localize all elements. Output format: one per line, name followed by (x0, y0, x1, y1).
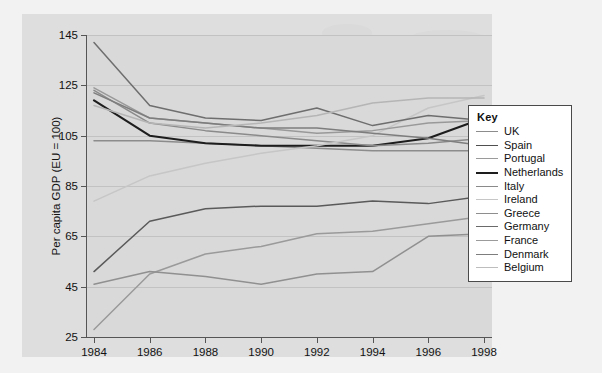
legend-item-portugal[interactable]: Portugal (476, 152, 565, 166)
legend-item-ireland[interactable]: Ireland (476, 193, 565, 207)
legend-swatch-icon (476, 254, 498, 255)
legend-swatch-icon (476, 199, 498, 200)
x-tick-label: 1984 (71, 346, 117, 358)
y-tick-label: 25 (32, 331, 78, 343)
legend-swatch-icon (476, 213, 498, 214)
legend-item-label: Denmark (504, 248, 549, 261)
legend-item-label: France (504, 234, 538, 247)
x-tick-label: 1986 (127, 346, 173, 358)
legend-item-greece[interactable]: Greece (476, 207, 565, 221)
legend-item-label: Belgium (504, 261, 544, 274)
y-axis-title-holder: Per capita GDP (EU = 100) (30, 10, 31, 11)
legend: Key UKSpainPortugalNetherlandsItalyIrela… (468, 105, 572, 282)
legend-item-label: Spain (504, 139, 532, 152)
legend-item-uk[interactable]: UK (476, 125, 565, 139)
legend-item-italy[interactable]: Italy (476, 179, 565, 193)
y-tick-label: 145 (32, 29, 78, 41)
legend-item-label: Italy (504, 180, 524, 193)
legend-item-label: Germany (504, 220, 549, 233)
legend-item-spain[interactable]: Spain (476, 139, 565, 153)
legend-item-france[interactable]: France (476, 234, 565, 248)
legend-swatch-icon (476, 267, 498, 268)
legend-item-denmark[interactable]: Denmark (476, 247, 565, 261)
legend-item-label: UK (504, 125, 519, 138)
series-line-greece (94, 234, 484, 284)
series-line-portugal (94, 216, 484, 329)
series-line-france (94, 88, 484, 133)
x-tick-label: 1996 (405, 346, 451, 358)
legend-item-netherlands[interactable]: Netherlands (476, 166, 565, 180)
x-tick-label: 1998 (461, 346, 507, 358)
legend-swatch-icon (476, 186, 498, 187)
y-axis-title: Per capita GDP (EU = 100) (50, 76, 62, 296)
legend-title: Key (477, 111, 565, 123)
legend-swatch-icon (476, 158, 498, 159)
legend-item-germany[interactable]: Germany (476, 220, 565, 234)
legend-swatch-icon (476, 131, 498, 132)
legend-item-label: Greece (504, 207, 540, 220)
x-axis-line (86, 337, 492, 338)
legend-swatch-icon (476, 145, 498, 146)
legend-swatch-icon (476, 226, 498, 227)
series-lines (86, 35, 492, 337)
legend-item-belgium[interactable]: Belgium (476, 261, 565, 275)
legend-item-label: Ireland (504, 193, 538, 206)
legend-swatch-icon (476, 240, 498, 241)
x-tick-label: 1992 (294, 346, 340, 358)
legend-item-label: Portugal (504, 152, 545, 165)
x-tick-label: 1988 (182, 346, 228, 358)
x-tick-label: 1990 (238, 346, 284, 358)
legend-items: UKSpainPortugalNetherlandsItalyIrelandGr… (476, 125, 565, 275)
series-line-ireland (94, 95, 484, 201)
series-line-germany (94, 43, 484, 126)
chart-screenshot: 14512510585654525 1984198619881990199219… (0, 0, 602, 373)
legend-item-label: Netherlands (504, 166, 563, 179)
series-line-spain (94, 196, 484, 272)
legend-swatch-icon (476, 172, 498, 174)
x-tick-label: 1994 (350, 346, 396, 358)
